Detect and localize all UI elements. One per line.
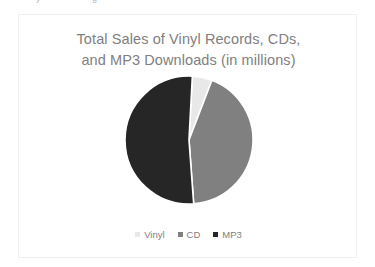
legend-label: CD (187, 230, 201, 240)
legend-label: Vinyl (144, 230, 164, 240)
pie-chart-area (19, 74, 358, 206)
legend-swatch-icon (135, 232, 140, 237)
artifact-glyph-one: y (36, 0, 41, 3)
legend-label: MP3 (222, 230, 242, 240)
chart-legend: VinylCDMP3 (19, 230, 358, 240)
legend-swatch-icon (213, 232, 218, 237)
pie-chart (119, 74, 259, 206)
legend-item-mp3[interactable]: MP3 (213, 230, 242, 240)
legend-item-cd[interactable]: CD (178, 230, 201, 240)
legend-item-vinyl[interactable]: Vinyl (135, 230, 164, 240)
legend-swatch-icon (178, 232, 183, 237)
artifact-glyph-two: g (92, 0, 97, 3)
clipped-text-artifact: y g (0, 0, 375, 11)
chart-title: Total Sales of Vinyl Records, CDs, and M… (19, 29, 358, 71)
pie-slice-mp3[interactable] (124, 76, 193, 204)
chart-card: Total Sales of Vinyl Records, CDs, and M… (18, 14, 357, 258)
